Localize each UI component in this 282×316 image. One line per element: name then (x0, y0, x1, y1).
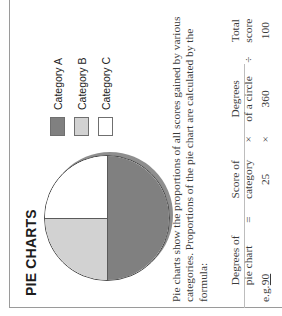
pie-chart-circle (44, 155, 170, 281)
body-paragraph: Pie charts show the proportions of all s… (170, 10, 210, 302)
formula-table: Degrees of pie chart = Score of category… (229, 10, 272, 302)
pie-slice-category-c (45, 156, 107, 218)
page-title: PIE CHARTS (23, 209, 39, 296)
formula-header-row: Degrees of pie chart = Score of category… (229, 10, 254, 302)
formula-example-score: 25 (259, 149, 272, 211)
legend-label-category-b: Category B (76, 57, 88, 110)
legend-item-category-c: Category C (98, 57, 113, 136)
formula-operator-divide: ÷ (242, 51, 255, 68)
paragraph-line-1: Pie charts show the proportions of all s… (170, 10, 183, 302)
chart-legend: Category A Category B Category C (50, 57, 113, 136)
pie-slice-category-a (107, 156, 169, 280)
formula-example-label: e.g. (259, 285, 272, 302)
formula-term-score-of-category: Score of category (229, 149, 254, 211)
document-page: PIE CHARTS Category A Category B (0, 0, 282, 316)
formula-example-degrees: 90 (259, 229, 272, 285)
page-border-top (9, 0, 10, 308)
formula-example-total: 100 (259, 10, 272, 51)
legend-label-category-c: Category C (100, 57, 112, 110)
legend-item-category-b: Category B (74, 57, 89, 136)
formula-term-degrees-of-a-circle: Degrees of a circle (229, 68, 254, 130)
paragraph-line-3: formula: (197, 10, 210, 302)
pie-chart (44, 149, 176, 281)
formula-example-circle-degrees: 360 (259, 68, 272, 130)
formula-operator-multiply: × (242, 130, 255, 149)
paragraph-line-2: categories. Proportions of the pie chart… (183, 10, 196, 302)
page-border-left (9, 307, 282, 308)
formula-example-row: e.g. 90 25 × 360 100 (259, 10, 272, 302)
page-content: PIE CHARTS Category A Category B (0, 0, 282, 316)
scanned-page-screenshot: PIE CHARTS Category A Category B (0, 0, 282, 316)
formula-example-operator-multiply: × (259, 130, 272, 149)
legend-swatch-category-b (74, 117, 89, 136)
legend-label-category-a: Category A (52, 58, 64, 110)
formula-term-total-score: Total score (229, 10, 254, 51)
legend-swatch-category-c (98, 117, 113, 136)
pie-slice-category-b (45, 218, 107, 280)
legend-swatch-category-a (50, 117, 65, 136)
formula-term-degrees-of-pie-chart: Degrees of pie chart (229, 229, 254, 285)
formula-operator-equals: = (242, 210, 255, 229)
legend-item-category-a: Category A (50, 57, 65, 136)
